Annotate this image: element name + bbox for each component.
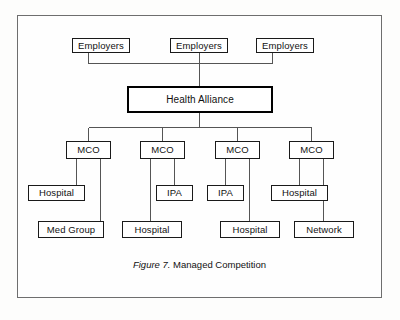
node-employer-center[interactable]: Employers — [170, 38, 228, 53]
node-label: Employers — [262, 41, 308, 51]
node-label: Hospital — [39, 188, 74, 198]
node-label: IPA — [167, 188, 182, 198]
node-health-alliance[interactable]: Health Alliance — [127, 86, 273, 113]
node-mco-2[interactable]: MCO — [140, 141, 185, 159]
node-mco4-child-hospital[interactable]: Hospital — [271, 185, 328, 201]
node-mco-1[interactable]: MCO — [66, 141, 111, 159]
node-mco4-child-network[interactable]: Network — [294, 221, 354, 238]
caption-title: Managed Competition — [173, 259, 266, 270]
node-label: IPA — [218, 188, 233, 198]
figure-caption: Figure 7. Managed Competition — [17, 259, 382, 270]
node-mco2-child-hospital[interactable]: Hospital — [122, 221, 182, 238]
node-mco3-child-hospital[interactable]: Hospital — [220, 221, 280, 238]
caption-label: Figure 7. — [133, 259, 171, 270]
node-mco3-child-ipa[interactable]: IPA — [207, 185, 244, 201]
node-mco-3[interactable]: MCO — [215, 141, 260, 159]
node-label: MCO — [77, 145, 99, 155]
node-mco-4[interactable]: MCO — [289, 141, 334, 159]
node-label: Hospital — [282, 188, 317, 198]
node-label: Med Group — [47, 225, 95, 235]
node-label: Employers — [176, 41, 222, 51]
node-mco2-child-ipa[interactable]: IPA — [156, 185, 193, 201]
node-label: Employers — [78, 41, 124, 51]
node-employer-left[interactable]: Employers — [72, 38, 130, 53]
node-label: Health Alliance — [166, 95, 234, 105]
node-mco1-child-hospital[interactable]: Hospital — [28, 185, 85, 201]
node-employer-right[interactable]: Employers — [256, 38, 314, 53]
node-label: MCO — [151, 145, 173, 155]
node-mco1-child-med-group[interactable]: Med Group — [38, 221, 104, 238]
node-label: MCO — [300, 145, 322, 155]
figure-container: Employers Employers Employers Health All… — [0, 0, 400, 320]
node-label: Network — [306, 225, 342, 235]
node-label: Hospital — [134, 225, 169, 235]
node-label: Hospital — [232, 225, 267, 235]
node-label: MCO — [226, 145, 248, 155]
